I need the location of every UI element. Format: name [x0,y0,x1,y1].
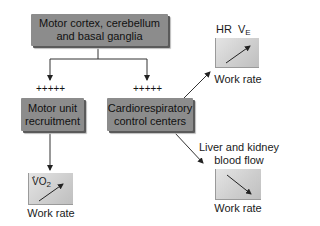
motor-cortex-node: Motor cortex, cerebellum and basal gangl… [31,14,168,46]
increasing-arrow-icon [216,38,259,67]
cardio-line1: Cardiorespiratory [108,102,192,115]
liver-kidney-line1: Liver and kidney [198,141,280,154]
vo2-chart: VO2 [28,173,73,205]
left-plus-signs: +++++ [36,83,65,94]
liver-kidney-chart [215,169,261,200]
increasing-arrow-icon [29,173,73,204]
motor-unit-recruitment-node: Motor unit recruitment [21,98,84,131]
hr-ve-label: HR VE [216,23,262,39]
motor-unit-line2: recruitment [25,115,80,128]
cardio-line2: control centers [114,115,186,128]
vo2-xlabel: Work rate [22,207,80,220]
right-plus-signs: +++++ [133,83,162,94]
ve-subscript: E [245,28,250,37]
hr-label: HR [216,23,232,35]
liver-kidney-xlabel: Work rate [209,202,267,215]
motor-cortex-line2: and basal ganglia [56,30,142,43]
hr-ve-xlabel: Work rate [210,73,266,86]
motor-unit-line1: Motor unit [28,102,77,115]
liver-kidney-title: Liver and kidney blood flow [198,141,280,167]
cardiorespiratory-node: Cardiorespiratory control centers [107,98,193,131]
hr-ve-chart [215,38,259,68]
liver-kidney-line2: blood flow [198,154,280,167]
decreasing-arrow-icon [216,169,261,199]
motor-cortex-line1: Motor cortex, cerebellum [39,17,160,30]
